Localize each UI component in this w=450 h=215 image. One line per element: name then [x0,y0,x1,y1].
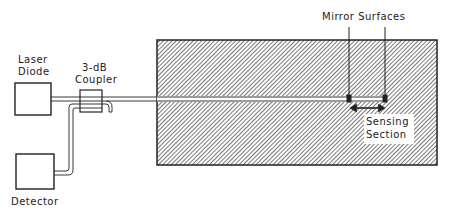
coupler-label-2: Coupler [75,74,118,85]
detector-box [16,154,54,189]
laser-diode-label-1: Laser [18,54,48,65]
sensing-section-label-2: Section [366,129,407,140]
coupler-label-1: 3-dB [82,62,107,73]
sensing-medium-block [157,40,437,165]
fiber-sensor-diagram: Laser Diode Detector 3-dB Coupler Mirror… [0,0,450,215]
sensing-section-label-1: Sensing [366,116,409,127]
mirror-surfaces-label: Mirror Surfaces [322,11,405,22]
detector-label: Detector [11,196,59,207]
laser-diode-label-2: Diode [18,66,50,77]
laser-diode-box [15,83,51,115]
